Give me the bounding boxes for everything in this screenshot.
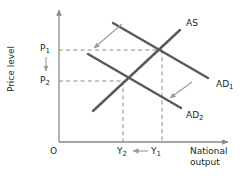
price-tick-p2: P2	[40, 75, 50, 85]
origin-label: O	[50, 146, 57, 156]
ad2-curve-label: AD2	[186, 110, 204, 120]
ad2-curve-label-text: AD	[186, 110, 199, 120]
as-curve-label: AS	[186, 18, 198, 28]
output-tick-y2-base: Y	[117, 146, 123, 156]
price-tick-p1: P1	[40, 43, 50, 53]
output-tick-y1: Y1	[151, 146, 161, 156]
curve-group	[88, 23, 208, 111]
output-tick-y1-base: Y	[151, 146, 157, 156]
ad1-curve-label: AD1	[216, 79, 234, 89]
ad1-curve-label-text: AD	[216, 79, 229, 89]
output-tick-y2: Y2	[117, 146, 127, 156]
output-tick-y2-sub: 2	[123, 150, 127, 158]
ad1-curve-label-sub: 1	[229, 83, 233, 91]
ad2-curve-label-sub: 2	[199, 114, 203, 122]
price-tick-p2-sub: 2	[45, 79, 49, 87]
x-axis-label: National output	[190, 146, 238, 169]
ad2-curve[interactable]	[88, 54, 181, 108]
ad-shift-arrow-upper	[94, 24, 122, 48]
as-curve-label-text: AS	[186, 18, 198, 28]
diagram-canvas: Price level National output O P1 P2 Y2 Y…	[0, 0, 246, 180]
y-axis-label: Price level	[6, 37, 16, 101]
output-tick-y1-sub: 1	[157, 150, 161, 158]
price-tick-p1-sub: 1	[45, 47, 49, 55]
ad-shift-arrow-lower	[170, 82, 192, 98]
